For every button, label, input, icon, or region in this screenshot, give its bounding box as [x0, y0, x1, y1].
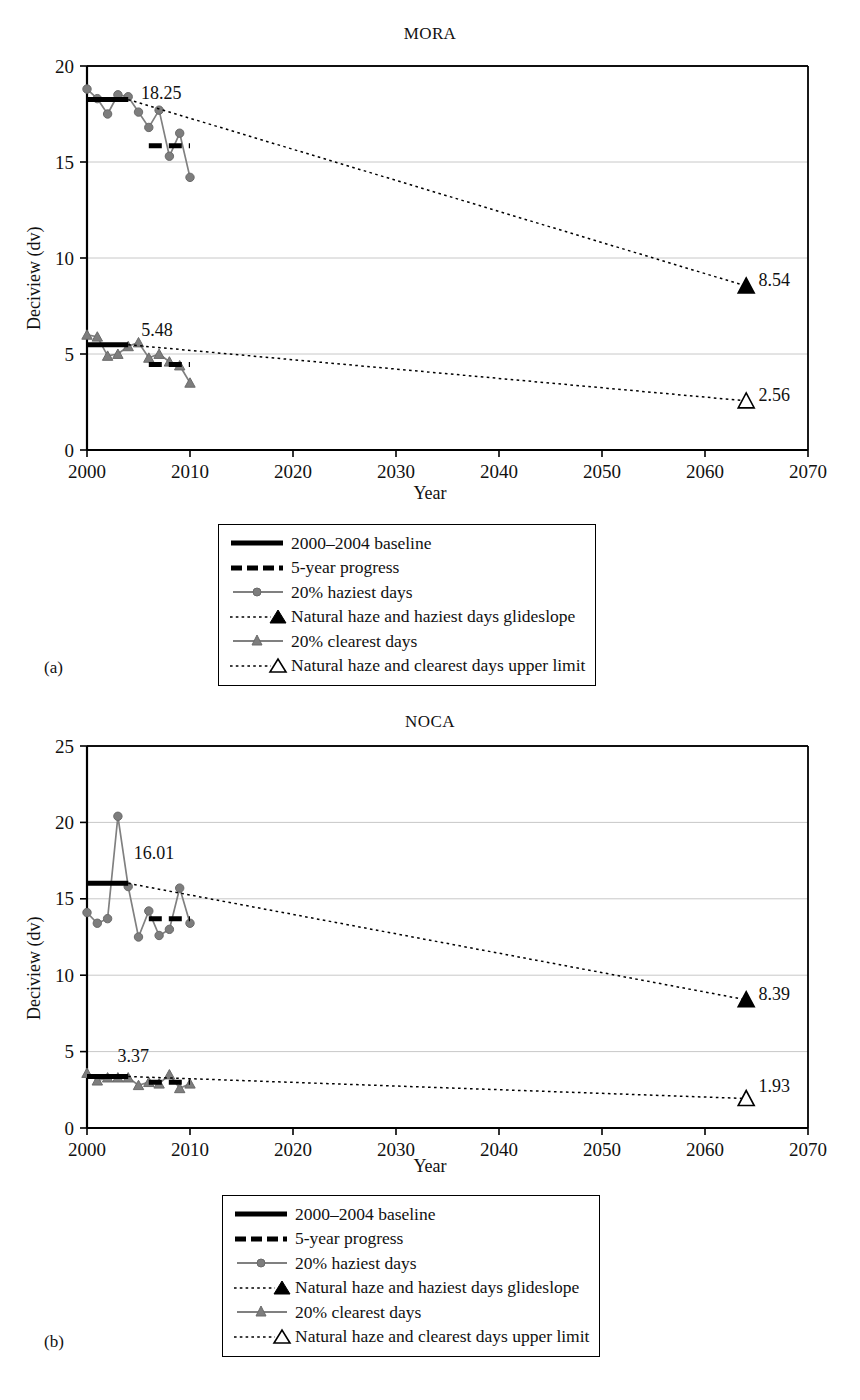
data-point-circle — [103, 110, 111, 118]
y-tick-label-10: 10 — [55, 248, 74, 269]
gray-line-triangle-marker-icon — [227, 631, 289, 651]
legend-item-label: Natural haze and clearest days upper lim… — [289, 657, 585, 675]
gray-line-circle-marker-icon — [231, 1253, 293, 1273]
legend-item-2[interactable]: 20% haziest days — [231, 1251, 589, 1276]
legend-item-0[interactable]: 2000–2004 baseline — [227, 531, 585, 556]
annotation-clearest-baseline-value: 3.37 — [118, 1046, 150, 1066]
annotation-haziest-glideslope-endpoint: 8.39 — [759, 984, 791, 1004]
data-point-circle — [165, 925, 173, 933]
data-point-circle — [83, 908, 91, 916]
x-tick-label-2040: 2040 — [480, 461, 518, 482]
dashed-thick-black-line-icon — [227, 558, 289, 578]
legend-item-1[interactable]: 5-year progress — [227, 556, 585, 581]
data-point-circle — [155, 931, 163, 939]
glideslope-line-7 — [128, 1077, 746, 1099]
data-point-circle — [145, 123, 153, 131]
dotted-line-open-triangle-icon — [227, 656, 289, 676]
glideslope-endpoint-filled-triangle-icon — [738, 992, 754, 1007]
legend-item-label: 20% clearest days — [293, 1304, 421, 1322]
y-tick-label-0: 0 — [65, 1118, 75, 1139]
dashed-thick-black-line-icon — [231, 1229, 293, 1249]
x-axis-label-b: Year — [0, 1156, 860, 1177]
legend-item-0[interactable]: 2000–2004 baseline — [231, 1202, 589, 1227]
circle-marker-icon — [253, 588, 261, 596]
legend-mora: 2000–2004 baseline5-year progress20% haz… — [218, 524, 596, 686]
panel-a-mora: MORA Deciview (dv) 051015202000201020202… — [0, 0, 860, 700]
glideslope-line-6 — [128, 883, 746, 999]
glideslope-endpoint-open-triangle-icon — [738, 393, 754, 408]
x-tick-label-2000: 2000 — [68, 461, 106, 482]
x-tick-label-2030: 2030 — [377, 461, 415, 482]
data-point-circle — [134, 933, 142, 941]
figure-page: MORA Deciview (dv) 051015202000201020202… — [0, 0, 860, 1400]
data-point-circle — [176, 129, 184, 137]
legend-item-2[interactable]: 20% haziest days — [227, 580, 585, 605]
data-point-triangle — [82, 330, 92, 339]
open-triangle-icon — [274, 1330, 290, 1343]
data-point-circle — [176, 884, 184, 892]
y-tick-label-25: 25 — [55, 736, 74, 757]
y-tick-label-10: 10 — [55, 965, 74, 986]
filled-triangle-icon — [274, 1281, 290, 1294]
data-point-circle — [93, 919, 101, 927]
filled-triangle-icon — [270, 610, 286, 623]
dotted-line-filled-triangle-icon — [227, 607, 289, 627]
x-tick-label-2060: 2060 — [686, 461, 724, 482]
x-tick-label-2010: 2010 — [171, 461, 209, 482]
legend-item-1[interactable]: 5-year progress — [231, 1227, 589, 1252]
glideslope-endpoint-filled-triangle-icon — [738, 278, 754, 293]
y-tick-label-20: 20 — [55, 56, 74, 77]
data-point-circle — [134, 108, 142, 116]
legend-item-label: 5-year progress — [293, 1230, 403, 1248]
data-point-circle — [186, 173, 194, 181]
dotted-line-open-triangle-icon — [231, 1327, 293, 1347]
data-point-circle — [165, 152, 173, 160]
dotted-line-filled-triangle-icon — [231, 1278, 293, 1298]
legend-item-label: 20% clearest days — [289, 633, 417, 651]
legend-item-label: 20% haziest days — [293, 1255, 417, 1273]
legend-item-4[interactable]: 20% clearest days — [227, 629, 585, 654]
panel-tag-a: (a) — [44, 658, 63, 678]
x-tick-label-2070: 2070 — [789, 461, 827, 482]
solid-thick-black-line-icon — [227, 533, 289, 553]
gray-line-triangle-marker-icon — [231, 1302, 293, 1322]
annotation-haziest-baseline-value: 16.01 — [134, 843, 175, 863]
circle-marker-icon — [257, 1259, 265, 1267]
legend-noca: 2000–2004 baseline5-year progress20% haz… — [222, 1195, 600, 1357]
data-point-circle — [145, 907, 153, 915]
legend-item-3[interactable]: Natural haze and haziest days glideslope — [231, 1276, 589, 1301]
data-point-circle — [83, 85, 91, 93]
x-axis-label-a: Year — [0, 483, 860, 504]
open-triangle-icon — [270, 659, 286, 672]
y-tick-label-0: 0 — [65, 440, 75, 461]
panel-b-noca: NOCA Deciview (dv) 051015202520002010202… — [0, 700, 860, 1400]
legend-item-label: 5-year progress — [289, 559, 399, 577]
plot-area-noca: 0510152025200020102020203020402050206020… — [0, 728, 860, 1228]
data-point-triangle — [185, 378, 195, 387]
y-tick-label-15: 15 — [55, 888, 74, 909]
gray-line-circle-marker-icon — [227, 582, 289, 602]
triangle-marker-icon — [252, 635, 262, 645]
legend-item-label: Natural haze and haziest days glideslope — [289, 608, 575, 626]
legend-item-label: 20% haziest days — [289, 584, 413, 602]
legend-item-4[interactable]: 20% clearest days — [231, 1300, 589, 1325]
annotation-haziest-glideslope-endpoint: 8.54 — [759, 270, 791, 290]
legend-item-label: 2000–2004 baseline — [289, 535, 431, 553]
y-tick-label-20: 20 — [55, 812, 74, 833]
legend-item-3[interactable]: Natural haze and haziest days glideslope — [227, 605, 585, 630]
y-tick-label-5: 5 — [65, 344, 75, 365]
data-point-circle — [103, 914, 111, 922]
data-point-circle — [114, 812, 122, 820]
x-tick-label-2050: 2050 — [583, 461, 621, 482]
y-tick-label-5: 5 — [65, 1041, 75, 1062]
legend-item-label: Natural haze and haziest days glideslope — [293, 1279, 579, 1297]
annotation-clearest-endpoint: 2.56 — [759, 385, 791, 405]
legend-item-5[interactable]: Natural haze and clearest days upper lim… — [227, 654, 585, 679]
legend-item-label: 2000–2004 baseline — [293, 1206, 435, 1224]
x-tick-label-2020: 2020 — [274, 461, 312, 482]
data-point-circle — [155, 106, 163, 114]
legend-item-5[interactable]: Natural haze and clearest days upper lim… — [231, 1325, 589, 1350]
plot-area-mora: 0510152020002010202020302040205020602070… — [0, 40, 860, 550]
solid-thick-black-line-icon — [231, 1204, 293, 1224]
glideslope-line-7 — [128, 345, 746, 401]
